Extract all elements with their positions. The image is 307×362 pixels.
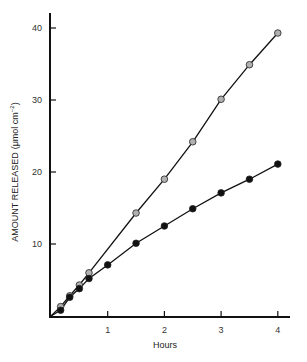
grey-circles-point [246,61,253,68]
y-axis-title-main: AMOUNT RELEASED [10,152,20,242]
black-circles-point [76,285,83,292]
black-circles-point [133,240,140,247]
x-tick-label: 3 [219,325,224,335]
black-circles-point [218,190,225,197]
grey-circles-point [189,138,196,145]
black-circles-point [246,176,253,183]
ticks: 123410203040 [32,23,280,335]
grey-circles-line [51,33,278,316]
black-circles-point [161,223,168,230]
y-tick-label: 30 [32,95,42,105]
series-lines [51,33,278,316]
grey-circles-point [218,96,225,103]
black-circles-point [66,294,73,301]
grey-circles-point [133,210,140,217]
black-circles-point [86,275,93,282]
y-axis-title-close: ) [10,102,20,105]
x-axis-title: Hours [153,340,178,350]
y-tick-label: 10 [32,239,42,249]
y-axis-title-unit: (μmol cm [10,112,20,149]
black-circles-point [57,307,64,314]
grey-circles-point [275,30,282,37]
release-chart: 123410203040 Hours AMOUNT RELEASED(μmol … [0,0,307,362]
x-tick-label: 1 [105,325,110,335]
black-circles-point [189,205,196,212]
grey-circles-point [161,176,168,183]
y-tick-label: 20 [32,167,42,177]
axes [49,13,290,317]
x-tick-label: 2 [162,325,167,335]
y-axis-title: AMOUNT RELEASED(μmol cm−2) [9,102,20,241]
black-circles-point [104,262,111,269]
y-tick-label: 40 [32,23,42,33]
series-points [57,30,281,314]
black-circles-line [51,164,278,316]
x-tick-label: 4 [275,325,280,335]
black-circles-point [275,161,282,168]
